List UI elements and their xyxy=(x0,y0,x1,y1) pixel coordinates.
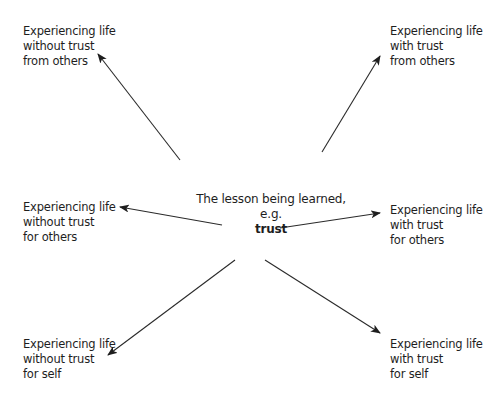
node-line: without trust xyxy=(23,215,116,230)
node-line: from others xyxy=(390,54,483,69)
node-without-trust-from-others: Experiencing life without trust from oth… xyxy=(23,24,116,69)
node-line: with trust xyxy=(390,39,483,54)
node-line: for self xyxy=(23,367,116,382)
node-without-trust-for-self: Experiencing life without trust for self xyxy=(23,337,116,382)
center-line2: e.g. xyxy=(196,207,346,222)
node-line: for others xyxy=(23,230,116,245)
node-with-trust-for-self: Experiencing life with trust for self xyxy=(390,337,483,382)
node-line: Experiencing life xyxy=(390,24,483,39)
arrow-bottom-right xyxy=(265,260,380,333)
node-line: without trust xyxy=(23,352,116,367)
node-line: without trust xyxy=(23,39,116,54)
node-line: Experiencing life xyxy=(390,203,483,218)
central-concept: The lesson being learned, e.g. trust xyxy=(196,192,346,237)
node-with-trust-for-others: Experiencing life with trust for others xyxy=(390,203,483,248)
node-line: with trust xyxy=(390,218,483,233)
node-line: Experiencing life xyxy=(23,200,116,215)
arrow-top-right xyxy=(322,56,380,152)
node-with-trust-from-others: Experiencing life with trust from others xyxy=(390,24,483,69)
node-line: Experiencing life xyxy=(23,337,116,352)
center-keyword: trust xyxy=(196,222,346,237)
node-line: with trust xyxy=(390,352,483,367)
arrow-top-left xyxy=(98,54,180,160)
node-line: from others xyxy=(23,54,116,69)
node-line: Experiencing life xyxy=(23,24,116,39)
arrow-bottom-left xyxy=(108,260,235,355)
node-without-trust-for-others: Experiencing life without trust for othe… xyxy=(23,200,116,245)
center-line1: The lesson being learned, xyxy=(196,192,346,207)
node-line: Experiencing life xyxy=(390,337,483,352)
node-line: for self xyxy=(390,367,483,382)
node-line: for others xyxy=(390,233,483,248)
